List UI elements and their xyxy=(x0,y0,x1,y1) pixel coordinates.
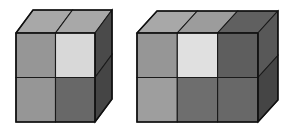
left-front-r1c1 xyxy=(56,78,96,123)
left-front-r1c0 xyxy=(16,78,56,123)
right-front-r0c0 xyxy=(137,33,177,78)
right-front-r1c0 xyxy=(137,78,177,123)
right-front-r0c1 xyxy=(177,33,217,78)
right-front-r1c2 xyxy=(218,78,258,123)
right-front-r1c1 xyxy=(177,78,217,123)
left-front-r0c1 xyxy=(56,33,96,78)
cube-figures-canvas xyxy=(0,0,294,132)
left-front-r0c0 xyxy=(16,33,56,78)
cube-figures-svg xyxy=(0,0,294,132)
right-front-r0c2 xyxy=(218,33,258,78)
